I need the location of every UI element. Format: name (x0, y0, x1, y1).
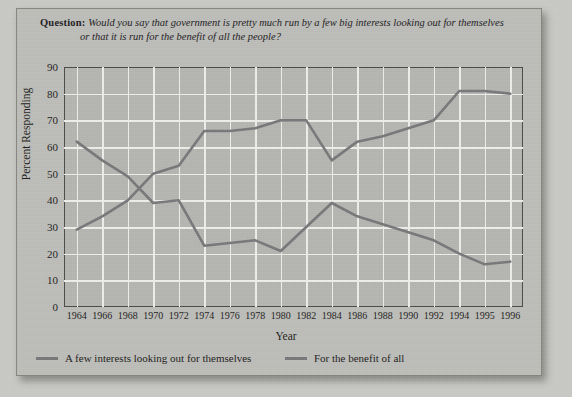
chart-legend: A few interests looking out for themselv… (0, 352, 572, 372)
question-line-1: Question: Would you say that government … (40, 16, 510, 30)
legend-item-1: For the benefit of all (285, 352, 404, 364)
y-axis-tick-10: 10 (34, 274, 58, 286)
y-axis-tick-20: 20 (34, 248, 58, 260)
plot-area (64, 67, 523, 307)
x-axis-ticks: 1964196619681970197219741976197819801982… (64, 310, 523, 326)
question-text-line-1: Would you say that government is pretty … (88, 17, 504, 28)
y-axis-tick-90: 90 (34, 61, 58, 73)
y-axis-tick-60: 60 (34, 141, 58, 153)
legend-swatch-0 (36, 357, 58, 360)
legend-label-1: For the benefit of all (314, 352, 404, 364)
series-layer (64, 67, 523, 307)
y-axis-tick-70: 70 (34, 114, 58, 126)
y-axis-tick-80: 80 (34, 88, 58, 100)
question-label: Question (40, 17, 82, 28)
y-axis-ticks: 0102030405060708090 (30, 67, 58, 307)
series-line-0 (77, 91, 511, 230)
legend-label-0: A few interests looking out for themselv… (65, 352, 251, 364)
question-caption: Question: Would you say that government … (40, 16, 510, 44)
x-axis-tick-1996: 1996 (490, 310, 530, 321)
y-axis-tick-40: 40 (34, 194, 58, 206)
y-axis-tick-30: 30 (34, 221, 58, 233)
y-axis-tick-50: 50 (34, 168, 58, 180)
question-separator: : (82, 17, 86, 28)
question-text-line-2: or that it is run for the benefit of all… (40, 30, 510, 44)
x-axis-label: Year (0, 330, 572, 342)
figure-page: Question: Would you say that government … (0, 0, 572, 397)
series-line-1 (77, 142, 511, 265)
legend-swatch-1 (285, 357, 307, 360)
y-axis-tick-0: 0 (34, 301, 58, 313)
legend-item-0: A few interests looking out for themselv… (36, 352, 251, 364)
